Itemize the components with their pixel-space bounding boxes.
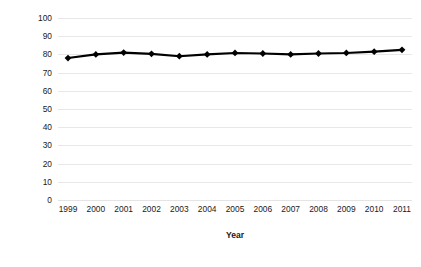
x-tick-label-1999: 1999 [59, 205, 78, 214]
y-tick-label-50: 50 [22, 105, 52, 113]
data-point-marker [176, 53, 183, 60]
data-point-marker [259, 50, 266, 57]
x-tick-label-2002: 2002 [142, 205, 161, 214]
y-tick-label-10: 10 [22, 178, 52, 186]
x-axis-tick-labels: 1999200020012002200320042005200620072008… [58, 205, 412, 219]
x-tick-label-2004: 2004 [198, 205, 217, 214]
series-layer [58, 18, 412, 200]
line-chart-figure: % of pupils achieving the Core Subject I… [0, 0, 421, 267]
y-tick-label-80: 80 [22, 50, 52, 58]
x-tick-label-2010: 2010 [365, 205, 384, 214]
gridline-0 [58, 200, 412, 201]
data-point-marker [371, 48, 378, 55]
x-tick-label-2009: 2009 [337, 205, 356, 214]
data-point-marker [120, 49, 127, 56]
y-tick-label-40: 40 [22, 123, 52, 131]
x-tick-label-2008: 2008 [309, 205, 328, 214]
x-tick-label-2011: 2011 [393, 205, 411, 214]
y-tick-label-20: 20 [22, 159, 52, 167]
y-tick-label-0: 0 [22, 196, 52, 204]
y-tick-label-60: 60 [22, 87, 52, 95]
y-tick-label-90: 90 [22, 32, 52, 40]
x-tick-label-2001: 2001 [114, 205, 133, 214]
data-point-marker [148, 50, 155, 57]
data-point-marker [315, 50, 322, 57]
data-point-marker [204, 51, 211, 58]
data-point-marker [65, 55, 72, 62]
y-tick-label-100: 100 [22, 14, 52, 22]
plot-area [58, 18, 412, 200]
x-tick-label-2000: 2000 [87, 205, 106, 214]
y-tick-label-70: 70 [22, 68, 52, 76]
y-tick-label-30: 30 [22, 141, 52, 149]
x-tick-label-2006: 2006 [254, 205, 273, 214]
x-tick-label-2003: 2003 [170, 205, 189, 214]
x-tick-label-2005: 2005 [226, 205, 245, 214]
x-axis-title: Year [58, 230, 412, 240]
y-axis-tick-labels: 0102030405060708090100 [18, 18, 52, 200]
data-point-marker [399, 46, 406, 53]
data-point-marker [343, 50, 350, 57]
x-tick-label-2007: 2007 [281, 205, 300, 214]
data-point-marker [287, 51, 294, 58]
data-point-marker [92, 51, 99, 58]
data-point-marker [232, 50, 239, 57]
